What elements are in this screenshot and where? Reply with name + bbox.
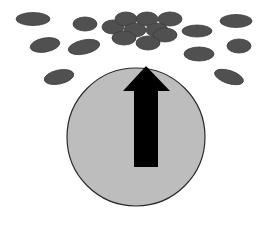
particle xyxy=(213,66,246,88)
chemotaxis-diagram xyxy=(0,0,264,227)
particle xyxy=(182,25,212,37)
particle xyxy=(136,36,160,50)
particle xyxy=(184,47,214,61)
diagram-canvas xyxy=(0,0,264,227)
particle xyxy=(227,39,251,53)
particle xyxy=(112,31,136,45)
particle xyxy=(29,36,61,55)
particle xyxy=(43,67,75,87)
particle xyxy=(73,17,97,31)
particle xyxy=(16,13,50,26)
particle xyxy=(67,37,101,57)
particle xyxy=(220,15,252,28)
